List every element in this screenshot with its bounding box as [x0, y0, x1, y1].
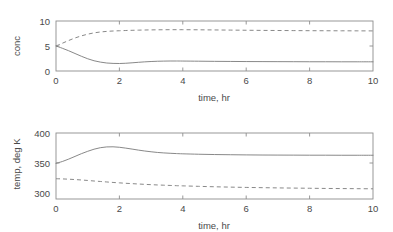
y-tick-label: 10 — [39, 16, 50, 27]
concentration-plot: 10 5 0 0 2 4 6 8 10 conc time, hr — [0, 0, 393, 116]
chart-panel-concentration: 10 5 0 0 2 4 6 8 10 conc time, hr — [0, 0, 393, 116]
series-line-dashed — [56, 179, 373, 189]
x-tick-label: 0 — [53, 203, 58, 214]
y-tick-label: 0 — [45, 66, 50, 77]
axes-frame — [56, 133, 373, 199]
x-tick-label: 10 — [368, 75, 379, 86]
y-tick-labels-temp: 400 350 300 — [34, 128, 50, 199]
x-tick-label: 4 — [180, 75, 185, 86]
x-axis-title: time, hr — [198, 220, 230, 231]
figure-canvas: 10 5 0 0 2 4 6 8 10 conc time, hr — [0, 0, 393, 232]
chart-panel-temperature: 400 350 300 0 2 4 6 8 10 temp, deg K tim… — [0, 116, 393, 232]
x-tick-label: 8 — [307, 203, 312, 214]
x-axis-title: time, hr — [198, 92, 230, 103]
y-axis-title: conc — [11, 36, 22, 56]
temperature-plot: 400 350 300 0 2 4 6 8 10 temp, deg K tim… — [0, 116, 393, 232]
y-axis-title: temp, deg K — [11, 138, 22, 190]
series-line-solid — [56, 147, 373, 164]
tick-marks-conc — [56, 21, 373, 71]
x-tick-label: 10 — [368, 203, 379, 214]
x-tick-label: 4 — [180, 203, 185, 214]
x-tick-label: 0 — [53, 75, 58, 86]
y-tick-label: 400 — [34, 128, 50, 139]
y-tick-label: 350 — [34, 158, 50, 169]
series-line-solid — [56, 46, 373, 64]
series-line-dashed — [56, 30, 373, 46]
x-tick-label: 6 — [244, 203, 249, 214]
x-tick-label: 2 — [117, 75, 122, 86]
x-tick-labels-conc: 0 2 4 6 8 10 — [53, 75, 378, 86]
tick-marks-temp — [56, 133, 373, 199]
x-tick-label: 8 — [307, 75, 312, 86]
x-tick-label: 2 — [117, 203, 122, 214]
y-tick-label: 5 — [45, 41, 50, 52]
axes-frame — [56, 21, 373, 71]
y-tick-labels-conc: 10 5 0 — [39, 16, 50, 77]
y-tick-label: 300 — [34, 188, 50, 199]
x-tick-label: 6 — [244, 75, 249, 86]
x-tick-labels-temp: 0 2 4 6 8 10 — [53, 203, 378, 214]
